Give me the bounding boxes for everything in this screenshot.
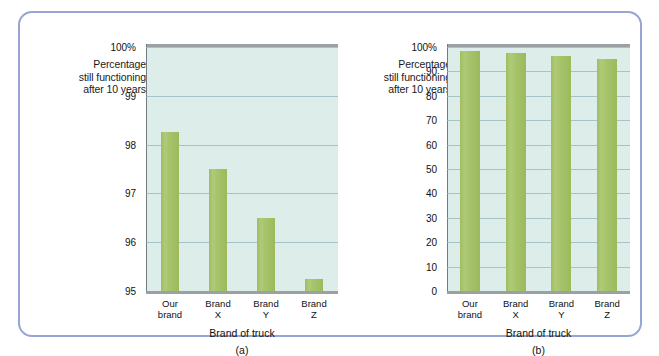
x-axis-title-a: Brand of truck (146, 327, 338, 339)
figure-frame: Percentage still functioning after 10 ye… (18, 11, 642, 337)
chart-panel-b: Percentage still functioning after 10 ye… (345, 31, 637, 331)
bar (305, 279, 323, 291)
y-tick-label: 0 (431, 286, 437, 297)
y-tick-label: 97 (125, 188, 136, 199)
x-category-label: Our brand (158, 298, 182, 320)
y-tick-label: 60 (426, 139, 437, 150)
x-category-label: Brand Z (301, 298, 326, 320)
y-tick-label: 96 (125, 237, 136, 248)
bar (597, 59, 617, 291)
gridline (146, 47, 338, 48)
bar (460, 51, 480, 291)
y-tick-label: 70 (426, 115, 437, 126)
y-axis-ticks-a: 9596979899100% (102, 44, 136, 294)
x-category-label: Brand Z (594, 298, 619, 320)
y-tick-label: 30 (426, 212, 437, 223)
x-axis-categories-b: Our brandBrand XBrand YBrand Z (447, 298, 630, 324)
x-category-label: Brand Y (549, 298, 574, 320)
x-category-label: Brand X (205, 298, 230, 320)
x-category-label: Brand Y (253, 298, 278, 320)
panel-caption-a: (a) (146, 344, 338, 356)
y-tick-label: 100% (411, 42, 437, 53)
panel-caption-b: (b) (447, 344, 630, 356)
x-category-label: Brand X (503, 298, 528, 320)
bar (506, 53, 526, 291)
x-category-label: Our brand (458, 298, 482, 320)
bar (257, 218, 275, 291)
y-tick-label: 98 (125, 139, 136, 150)
x-axis-title-b: Brand of truck (447, 327, 630, 339)
bar (209, 169, 227, 291)
plot-area-b (447, 44, 630, 294)
chart-panel-a: Percentage still functioning after 10 ye… (42, 31, 342, 331)
y-axis-spine-a (146, 44, 147, 294)
plot-area-a (146, 44, 338, 294)
y-tick-label: 90 (426, 66, 437, 77)
gridline (447, 47, 630, 48)
y-tick-label: 80 (426, 90, 437, 101)
y-tick-label: 99 (125, 90, 136, 101)
bar (161, 132, 179, 291)
x-axis-categories-a: Our brandBrand XBrand YBrand Z (146, 298, 338, 324)
y-tick-label: 50 (426, 164, 437, 175)
y-axis-ticks-b: 0102030405060708090100% (403, 44, 437, 294)
y-tick-label: 100% (110, 42, 136, 53)
y-tick-label: 40 (426, 188, 437, 199)
plot-bottom-rule-b (447, 291, 630, 294)
bar (551, 56, 571, 291)
y-tick-label: 95 (125, 286, 136, 297)
gridline (146, 96, 338, 97)
y-tick-label: 10 (426, 261, 437, 272)
plot-bottom-rule-a (146, 291, 338, 294)
y-tick-label: 20 (426, 237, 437, 248)
